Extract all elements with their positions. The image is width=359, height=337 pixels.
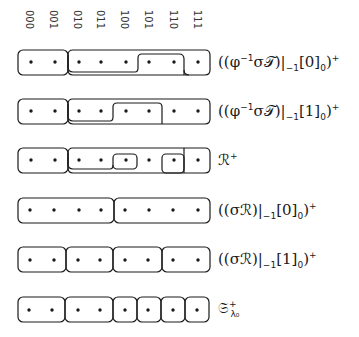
row-3-label: ℛ+ [218, 152, 238, 168]
row-1-label: ((φ−1σ𝒯)|−1[0]0)+ [218, 54, 339, 73]
row-5-dots [28, 258, 199, 261]
row-4-blocks [18, 198, 210, 223]
row-5-blocks [18, 247, 210, 272]
row-6-label: 𝔖+λ₀ [218, 300, 239, 319]
row-5-label: ((σℛ)|−1[1]0)+ [218, 251, 317, 270]
row-4-label: ((σℛ)|−1[0]0)+ [218, 202, 317, 221]
row-2-label: ((φ−1σ𝒯)|−1[1]0)+ [218, 103, 339, 122]
partition-diagram [0, 0, 359, 337]
row-3-dots [29, 158, 199, 161]
row-3-blocks [18, 148, 210, 173]
row-1-dots [29, 60, 199, 63]
row-1-blocks [18, 50, 210, 75]
row-6-blocks [18, 297, 209, 322]
row-2-dots [29, 109, 199, 112]
row-2-blocks [18, 99, 210, 124]
